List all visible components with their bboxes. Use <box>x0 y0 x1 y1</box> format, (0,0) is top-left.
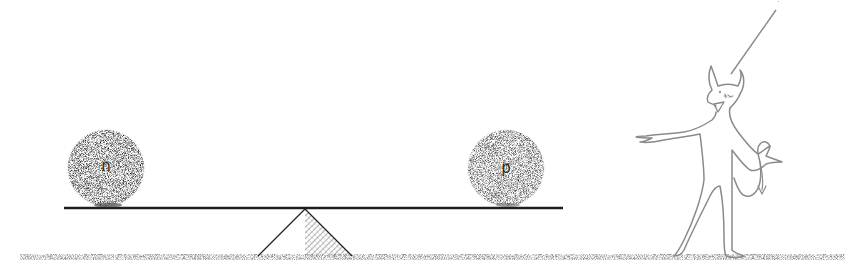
ball-n <box>68 130 144 208</box>
fulcrum <box>258 209 352 256</box>
ground-line <box>20 254 845 260</box>
ball-p <box>468 130 544 207</box>
diagram-canvas <box>0 0 856 277</box>
pointer-line <box>731 10 776 74</box>
devil-mouth <box>714 102 724 112</box>
devil-head <box>707 66 744 108</box>
pointer-line-tip <box>778 1 779 2</box>
devil-figure <box>636 66 782 258</box>
devil-eye-icon <box>719 91 721 93</box>
seesaw-diagram: n p <box>0 0 856 277</box>
